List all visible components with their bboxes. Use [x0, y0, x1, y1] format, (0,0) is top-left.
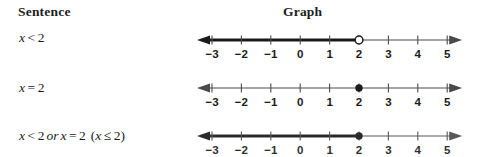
number-line-svg-3: −3−2−1012345: [195, 126, 467, 157]
sentence-3-paren-open: (: [86, 128, 96, 143]
tick-label: 1: [326, 144, 333, 156]
tick-label: 0: [297, 96, 303, 108]
sentence-1-value: 2: [38, 30, 45, 45]
number-line-3: −3−2−1012345: [195, 126, 467, 157]
sentence-3-paren-close: ): [120, 128, 125, 143]
number-line-svg-1: −3−2−1012345: [195, 30, 467, 64]
sentence-3-value-b: 2: [79, 128, 86, 143]
sentence-3-operator-c: ≤: [101, 128, 113, 143]
sentence-row-1: x<2: [19, 30, 44, 46]
tick-label: −1: [264, 48, 278, 60]
tick-label: 3: [385, 96, 391, 108]
closed-dot-endpoint: [355, 132, 362, 139]
tick-label: 1: [326, 48, 333, 60]
tick-label: 2: [356, 96, 362, 108]
number-line-1: −3−2−1012345: [195, 30, 467, 64]
tick-label: −2: [235, 96, 248, 108]
tick-label: 4: [415, 48, 422, 60]
tick-label: −3: [205, 144, 218, 156]
tick-label: −2: [235, 144, 248, 156]
column-header-sentence: Sentence: [18, 4, 71, 20]
tick-label: 1: [326, 96, 333, 108]
column-header-graph: Graph: [283, 4, 322, 20]
tick-label: 2: [356, 144, 362, 156]
tick-label: −1: [264, 144, 278, 156]
sentence-row-2: x=2: [19, 80, 44, 96]
tick-label: 5: [444, 96, 451, 108]
tick-label: 3: [385, 144, 391, 156]
sentence-row-3: x<2orx=2(x≤2): [19, 128, 125, 144]
tick-label: −3: [205, 48, 218, 60]
figure-root: Sentence Graph x<2 x=2 x<2orx=2(x≤2) −3−…: [0, 0, 478, 157]
number-line-2: −3−2−1012345: [195, 78, 467, 112]
tick-label: 0: [297, 48, 303, 60]
tick-label: 4: [415, 144, 422, 156]
number-line-svg-2: −3−2−1012345: [195, 78, 467, 112]
tick-label: 2: [356, 48, 362, 60]
tick-label: 0: [297, 144, 303, 156]
open-circle-endpoint: [355, 36, 363, 44]
tick-label: −1: [264, 96, 278, 108]
tick-label: 3: [385, 48, 391, 60]
tick-label: 4: [415, 96, 422, 108]
arrowhead-right: [449, 132, 462, 141]
arrowhead-right: [449, 84, 462, 93]
sentence-3-connector: or: [44, 128, 60, 143]
arrowhead-left: [197, 84, 210, 93]
tick-label: 5: [444, 144, 451, 156]
arrowhead-left: [197, 132, 210, 141]
sentence-3-operator-b: =: [66, 128, 79, 143]
sentence-1-operator: <: [25, 30, 38, 45]
sentence-3-operator-a: <: [25, 128, 38, 143]
arrowhead-right: [449, 36, 462, 45]
closed-dot-endpoint: [355, 84, 362, 91]
tick-label: 5: [444, 48, 451, 60]
sentence-2-operator: =: [25, 80, 38, 95]
tick-label: −2: [235, 48, 248, 60]
arrowhead-left: [197, 36, 210, 45]
tick-label: −3: [205, 96, 218, 108]
sentence-2-value: 2: [38, 80, 45, 95]
